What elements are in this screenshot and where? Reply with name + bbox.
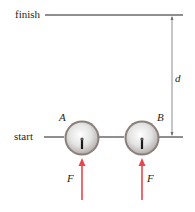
puck-b: B F [125,111,165,200]
puck-pivot [140,137,143,140]
start-label: start [14,130,33,142]
puck-pivot [80,137,83,140]
distance-label: d [175,72,181,84]
arrowhead-up-icon [171,16,174,20]
diagram: finish start d A F [0,0,195,212]
force-label-b: F [146,172,154,184]
arrowhead-down-icon [171,132,174,136]
distance-dimension: d [171,16,182,136]
arrowhead-up-icon [79,158,86,166]
finish-line-group: finish [15,8,183,20]
puck-b-label: B [157,111,164,123]
puck-a: A F [58,111,100,200]
puck-a-label: A [58,111,66,123]
finish-label: finish [15,8,41,20]
arrowhead-up-icon [139,158,146,166]
force-label-a: F [66,172,74,184]
